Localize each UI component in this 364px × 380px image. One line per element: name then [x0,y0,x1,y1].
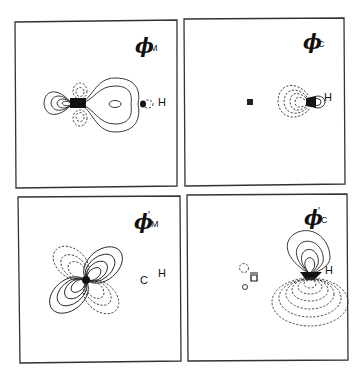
atom-label-H: H [158,267,166,279]
atom-label-H: H [324,91,332,103]
prime-mark: ' [148,210,150,221]
atom-label-H: H [325,264,333,276]
panel-label-phi-prime-M: ϕ [134,210,153,234]
phi-symbol: ϕ [134,210,153,234]
atom-label-H: H [158,96,166,108]
subscript-C: C [321,215,328,225]
subscript-C: C [318,39,325,49]
atom-label-C: C [140,274,148,286]
phi-symbol: ϕ [304,206,323,230]
subscript-M: M [150,43,158,53]
contours-phi-C [247,85,325,117]
contours-phi-M [44,78,153,132]
contours-phi-prime-M [43,239,130,320]
orbital-contour-figure [0,0,364,380]
subscript-M: M [151,219,159,229]
panel-label-phi-prime-C: ϕ [304,206,323,230]
contours-phi-prime-C [240,231,349,326]
prime-mark: ' [318,206,320,217]
